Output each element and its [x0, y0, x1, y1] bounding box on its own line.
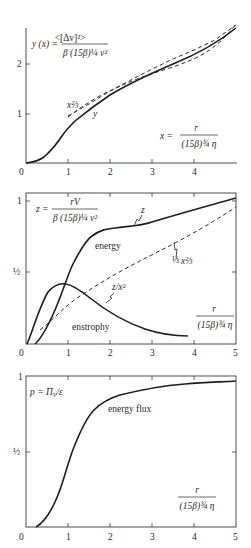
label-x23: x⅔ — [180, 256, 193, 266]
x-tick-label: 3 — [150, 532, 155, 542]
x-tick-label: 4 — [192, 167, 197, 177]
y-tick-label: 1 — [17, 196, 22, 206]
label-y: y — [92, 109, 98, 119]
x-tick-label: 0 — [19, 348, 24, 358]
panel-middle: ½ 1 0 1 2 3 4 5 z = rV β (15β)¼ v² energ… — [13, 193, 238, 358]
x-tick-label: 3 — [150, 167, 155, 177]
xvar-lhs: x = — [159, 131, 173, 141]
formula-numerator: rV — [70, 197, 81, 207]
xvar-numerator: r — [212, 304, 216, 314]
x-tick-label: 1 — [66, 348, 71, 358]
pointer-zx2 — [106, 293, 114, 303]
y-tick-label: 2 — [17, 59, 22, 69]
formula-numerator: <[Δv]²> — [55, 33, 86, 43]
x-tick-label: 0 — [19, 532, 24, 542]
figure: 1 2 0 1 2 3 4 y (x) = <[Δv]²> β (15β)¼ v… — [0, 0, 251, 548]
label-energy: energy — [95, 241, 121, 251]
formula-denominator: β (15β)¼ v² — [62, 48, 107, 59]
y-tick-label: 1 — [17, 109, 22, 119]
xvar-denominator: (15β)¾ η — [182, 139, 217, 150]
formula-lhs: z = — [35, 204, 48, 214]
label-third: ⅓ — [172, 255, 179, 265]
x-tick-label: 1 — [66, 167, 71, 177]
x-tick-label: 2 — [108, 532, 113, 542]
x-tick-label: 0 — [19, 167, 24, 177]
xvar-numerator: r — [194, 123, 198, 133]
xvar-numerator: r — [195, 485, 199, 495]
panel-bottom: ½ 1 0 1 2 3 4 5 p = ΠV/ε energy flux r (… — [13, 372, 238, 542]
xvar-denominator: (15β)¾ η — [198, 320, 233, 331]
label-x23: x⅔ — [66, 100, 79, 110]
label-energy-flux: energy flux — [108, 404, 152, 414]
x-tick-label: 1 — [66, 532, 71, 542]
label-z: z — [140, 205, 145, 215]
formula-denominator: β (15β)¼ v² — [52, 213, 97, 224]
xvar-denominator: (15β)¾ η — [180, 501, 215, 512]
y-tick-label: ½ — [13, 267, 20, 277]
series-enstrophy — [27, 284, 188, 344]
x-tick-label: 5 — [233, 532, 238, 542]
y-tick-label: 1 — [18, 372, 23, 382]
series-x23-dashed — [68, 25, 236, 116]
x-tick-label: 2 — [108, 167, 113, 177]
label-enstrophy: enstrophy — [72, 322, 110, 332]
y-tick-label: ½ — [13, 447, 20, 457]
x-tick-label: 4 — [192, 348, 197, 358]
x-tick-label: 5 — [233, 348, 238, 358]
label-zx2: z/x² — [111, 282, 126, 292]
x-tick-label: 3 — [150, 348, 155, 358]
x-tick-label: 2 — [108, 348, 113, 358]
panel-top: 1 2 0 1 2 3 4 y (x) = <[Δv]²> β (15β)¼ v… — [17, 24, 237, 177]
formula-p: p = ΠV/ε — [29, 387, 63, 398]
series-x23-dashed — [68, 24, 236, 117]
x-tick-label: 4 — [192, 532, 197, 542]
